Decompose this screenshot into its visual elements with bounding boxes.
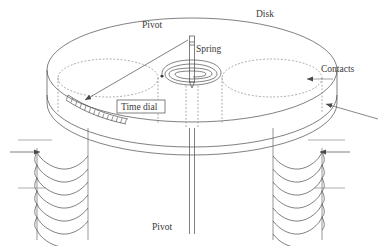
right-coil	[273, 128, 350, 246]
label-pivot-top: Pivot	[142, 20, 162, 30]
lower-right-arrow	[326, 104, 378, 119]
induction-disk-relay-diagram: Pivot Spring Disk Contacts Pivot Time di…	[0, 0, 385, 246]
disk-bottom-edge-inner	[47, 95, 337, 147]
left-coil-windings	[35, 152, 88, 246]
label-pivot-bottom: Pivot	[152, 222, 172, 232]
hidden-core-edges	[58, 78, 322, 128]
right-pole-core-circle	[222, 59, 322, 97]
label-time-dial-box: Time dial	[117, 100, 165, 113]
spring-anchor-dot	[160, 74, 163, 77]
label-time-dial: Time dial	[121, 102, 158, 112]
left-coil	[10, 128, 88, 246]
label-disk: Disk	[256, 9, 274, 19]
label-spring: Spring	[196, 44, 222, 54]
right-coil-windings	[273, 152, 324, 246]
left-pole-core-circle	[58, 59, 158, 97]
pivot-shaft	[190, 36, 195, 234]
label-contacts: Contacts	[321, 64, 355, 74]
